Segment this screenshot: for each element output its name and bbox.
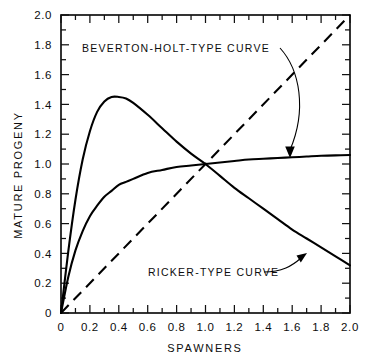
- x-tick-label: 1.8: [312, 321, 330, 333]
- x-tick-label: 0.2: [81, 321, 99, 333]
- x-tick-label: 2.0: [341, 321, 359, 333]
- y-tick-label: 0: [45, 307, 52, 319]
- annotation-beverton-holt-label: BEVERTON-HOLT-TYPE CURVE: [82, 42, 270, 54]
- x-tick-labels: 00.20.40.60.81.01.21.41.61.82.0: [58, 321, 359, 333]
- annotation-beverton-holt-leader: [280, 48, 300, 150]
- x-axis-top-ticks: [61, 15, 350, 23]
- y-tick-label: 0.8: [34, 188, 52, 200]
- beverton-holt-type-curve: [61, 155, 350, 313]
- y-tick-label: 0.4: [34, 248, 52, 260]
- x-tick-label: 0.6: [139, 321, 157, 333]
- x-tick-label: 1.4: [254, 321, 272, 333]
- y-tick-label: 1.4: [34, 99, 52, 111]
- y-tick-label: 0.6: [34, 218, 52, 230]
- y-axis-title: MATURE PROGENY: [12, 111, 24, 239]
- y-axis-ticks: [61, 15, 69, 313]
- x-tick-label: 0: [58, 321, 65, 333]
- y-tick-label: 0.2: [34, 277, 52, 289]
- ricker-type-curve: [61, 97, 350, 313]
- x-tick-label: 1.6: [283, 321, 301, 333]
- y-tick-labels: 00.20.40.60.81.01.21.41.61.82.0: [34, 9, 52, 319]
- y-axis-right-ticks: [342, 15, 350, 313]
- y-tick-label: 1.8: [34, 39, 52, 51]
- x-axis-title: SPAWNERS: [167, 342, 242, 354]
- x-tick-label: 1.2: [226, 321, 244, 333]
- chart-figure: 00.20.40.60.81.01.21.41.61.82.0 00.20.40…: [0, 0, 373, 362]
- y-tick-label: 1.6: [34, 69, 52, 81]
- x-tick-label: 0.8: [168, 321, 186, 333]
- y-tick-label: 1.2: [34, 128, 52, 140]
- y-tick-label: 1.0: [34, 158, 52, 170]
- y-tick-label: 2.0: [34, 9, 52, 21]
- x-tick-label: 1.0: [197, 321, 215, 333]
- x-tick-label: 0.4: [110, 321, 128, 333]
- x-axis-ticks: [61, 305, 350, 313]
- annotation-ricker-label: RICKER-TYPE CURVE: [148, 266, 279, 278]
